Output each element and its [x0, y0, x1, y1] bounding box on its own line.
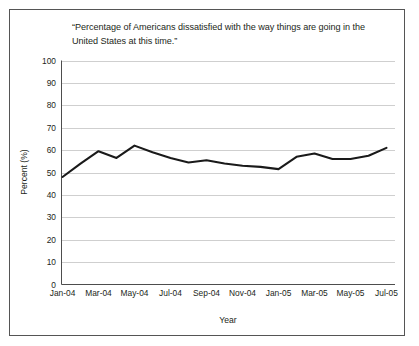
x-axis-tick-label: Jul-05 — [375, 288, 398, 298]
y-axis-tick-label: 40 — [47, 190, 57, 200]
y-axis-tick-label: 70 — [47, 123, 57, 133]
y-axis-tick-label: 10 — [47, 257, 57, 267]
x-axis-title: Year — [219, 315, 237, 325]
y-axis-tick-label: 80 — [47, 100, 57, 110]
x-axis-tick-label: Mar-04 — [85, 288, 112, 298]
y-axis-tick-label: 90 — [47, 78, 57, 88]
x-axis-tick-label: Sep-04 — [193, 288, 220, 298]
x-axis-tick-label: Jan-05 — [266, 288, 292, 298]
y-axis-tick-label: 20 — [47, 235, 57, 245]
y-axis-tick-labels: 1009080706050403020100 — [42, 56, 56, 290]
y-axis-tick-label: 100 — [42, 56, 56, 66]
y-axis-tick-label: 60 — [47, 145, 57, 155]
x-axis-tick-label: Jan-04 — [50, 288, 76, 298]
x-axis-tick-label: May-05 — [337, 288, 365, 298]
x-axis-tick-label: Nov-04 — [229, 288, 256, 298]
x-axis-tick-labels: Jan-04Mar-04May-04Jul-04Sep-04Nov-04Jan-… — [50, 288, 399, 298]
line-chart-plot: 1009080706050403020100 Jan-04Mar-04May-0… — [0, 0, 419, 346]
gridlines-group — [62, 62, 396, 263]
y-axis-tick-label: 30 — [47, 212, 57, 222]
y-axis-tick-label: 50 — [47, 168, 57, 178]
x-axis-tick-label: Jul-04 — [159, 288, 182, 298]
y-axis-title: Percent (%) — [19, 149, 29, 195]
x-axis-tick-label: Mar-05 — [301, 288, 328, 298]
x-axis-tick-label: May-04 — [121, 288, 149, 298]
